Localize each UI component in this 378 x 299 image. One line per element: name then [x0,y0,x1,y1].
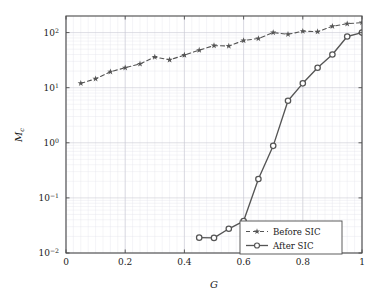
y-axis-label-base: M [13,131,24,143]
x-tick-label: 1 [359,257,365,267]
x-tick-label: 0.8 [296,257,311,267]
x-tick-label: 0 [63,257,69,267]
data-point-circle-marker [315,65,320,70]
log-line-chart: 00.20.40.60.81 10−210−1100101102 G Mc Be… [0,0,378,299]
x-tick-label: 0.2 [118,257,132,267]
data-point-circle-marker [226,226,231,231]
data-point-circle-marker [197,235,202,240]
data-point-circle-marker [345,34,350,39]
data-point-circle-marker [300,81,305,86]
minor-gridlines [66,16,362,253]
x-tick-label: 0.6 [236,257,251,267]
x-axis-label: G [210,279,218,290]
legend-marker-circle-icon [255,243,260,248]
y-axis-label-subscript: c [18,128,26,132]
data-point-circle-marker [330,52,335,57]
data-point-circle-marker [285,98,290,103]
legend[interactable]: Before SIC After SIC [240,221,342,254]
x-tick-label: 0.4 [177,257,192,267]
legend-label-before-sic: Before SIC [273,227,321,237]
data-point-circle-marker [211,235,216,240]
legend-label-after-sic: After SIC [272,241,314,251]
figure-container: 00.20.40.60.81 10−210−1100101102 G Mc Be… [0,0,378,299]
data-point-circle-marker [256,176,261,181]
data-point-circle-marker [271,143,276,148]
